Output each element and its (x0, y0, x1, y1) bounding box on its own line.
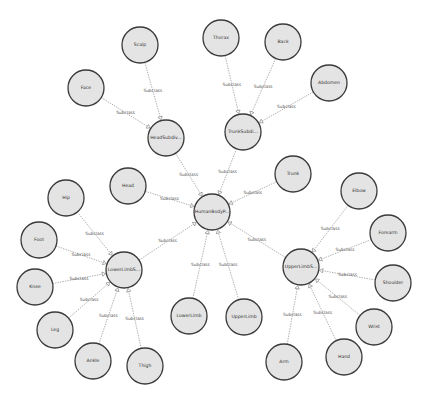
edge-label: Subclass (222, 82, 242, 87)
node-wrist[interactable]: Wrist (356, 309, 392, 345)
node-elbow[interactable]: Elbow (341, 173, 377, 209)
edge-label: Subclass (254, 84, 274, 89)
edge-label: Subclass (219, 262, 239, 267)
edge-label: Subclass (191, 262, 211, 267)
edge-back-to-trunk-subdiv[interactable]: Subclass (250, 58, 276, 114)
node-label: Trunk (286, 171, 300, 176)
node-back[interactable]: Back (265, 24, 301, 60)
ontology-graph-canvas[interactable]: SubclassSubclassSubclassSubclassSubclass… (0, 0, 428, 401)
edge-label: Subclass (72, 252, 92, 257)
edge-label: Subclass (321, 226, 341, 231)
node-lower-limb[interactable]: LowerLimb (171, 298, 207, 334)
arrowhead-icon (192, 222, 196, 226)
node-label: Wrist (368, 324, 380, 329)
node-human-body[interactable]: HumanBodyP... (194, 194, 230, 230)
edge-label: Subclass (313, 310, 333, 315)
node-arm[interactable]: Arm (266, 344, 302, 380)
edge-label: Subclass (283, 312, 303, 317)
node-label: Scalp (134, 42, 147, 47)
node-shoulder[interactable]: Shoulder (375, 265, 411, 301)
node-label: Leg (51, 327, 59, 332)
node-face[interactable]: Face (68, 70, 104, 106)
node-hand[interactable]: Hand (326, 339, 362, 375)
edge-label: Subclass (338, 272, 358, 277)
node-label: Head (122, 183, 134, 188)
node-label: Foot (34, 237, 44, 242)
arrowhead-icon (319, 257, 323, 261)
edge-label: Subclass (143, 88, 163, 93)
edge-label: Subclass (80, 297, 100, 302)
arrowhead-icon (205, 231, 209, 234)
nodes-layer: HumanBodyP...HeadSubdiv...TrunkSubdi...L… (17, 20, 411, 384)
edge-shoulder-to-upper-limb-subdiv[interactable]: Subclass (320, 269, 376, 280)
edge-lower-limb-to-human-body[interactable]: Subclass (191, 231, 211, 299)
edge-label: Subclass (247, 237, 267, 242)
edge-trunk-to-human-body[interactable]: Subclass (229, 182, 277, 205)
edge-head-subdiv-to-human-body[interactable]: Subclass (176, 153, 203, 196)
node-trunk[interactable]: Trunk (275, 156, 311, 192)
edge-label: Subclass (336, 247, 356, 252)
node-abdomen[interactable]: Abdomen (311, 65, 347, 101)
edge-knee-to-lower-limb-subdiv[interactable]: Subclass (53, 272, 106, 284)
arrowhead-icon (216, 230, 220, 234)
edge-thigh-to-lower-limb-subdiv[interactable]: Subclass (125, 289, 145, 349)
edge-upper-limb-subdiv-to-human-body[interactable]: Subclass (228, 222, 286, 258)
node-head[interactable]: Head (110, 168, 146, 204)
edge-face-to-head-subdiv[interactable]: Subclass (101, 98, 150, 129)
node-label: Thorax (212, 35, 229, 40)
arrowhead-icon (295, 286, 299, 289)
node-leg[interactable]: Leg (37, 312, 73, 348)
edge-label: Subclass (158, 238, 178, 243)
arrowhead-icon (108, 251, 112, 255)
edge-arm-to-upper-limb-subdiv[interactable]: Subclass (283, 286, 303, 345)
arrowhead-icon (218, 191, 222, 195)
node-lower-limb-subdiv[interactable]: LowerLimbS... (106, 252, 142, 288)
node-head-subdiv[interactable]: HeadSubdiv... (148, 120, 184, 156)
node-label: UpperLimbS... (285, 264, 317, 269)
edge-ankle-to-lower-limb-subdiv[interactable]: Subclass (99, 288, 119, 344)
node-label: Abdomen (318, 80, 340, 85)
edge-abdomen-to-trunk-subdiv[interactable]: Subclass (260, 92, 314, 123)
edge-label: Subclass (99, 313, 119, 318)
arrowhead-icon (190, 203, 194, 207)
edge-elbow-to-upper-limb-subdiv[interactable]: Subclass (313, 205, 349, 252)
node-label: Forearm (378, 230, 398, 235)
node-label: HeadSubdiv... (150, 135, 182, 140)
node-knee[interactable]: Knee (17, 269, 53, 305)
edge-lower-limb-subdiv-to-human-body[interactable]: Subclass (139, 222, 196, 260)
arrowhead-icon (198, 192, 202, 196)
edge-upper-limb-to-human-body[interactable]: Subclass (216, 230, 238, 300)
edge-forearm-to-upper-limb-subdiv[interactable]: Subclass (319, 240, 372, 261)
edge-thorax-to-trunk-subdiv[interactable]: Subclass (222, 56, 242, 114)
node-ankle[interactable]: Ankle (75, 343, 111, 379)
edge-trunk-subdiv-to-human-body[interactable]: Subclass (218, 149, 238, 194)
node-scalp[interactable]: Scalp (122, 27, 158, 63)
node-label: Hip (62, 195, 70, 200)
node-label: Ankle (87, 358, 100, 363)
edge-label: Subclass (116, 110, 136, 115)
node-upper-limb-subdiv[interactable]: UpperLimbS... (283, 249, 319, 285)
node-thorax[interactable]: Thorax (203, 20, 239, 56)
edge-scalp-to-head-subdiv[interactable]: Subclass (143, 62, 163, 119)
node-foot[interactable]: Foot (21, 222, 57, 258)
edge-head-to-human-body[interactable]: Subclass (145, 191, 194, 207)
arrowhead-icon (158, 116, 162, 120)
node-trunk-subdiv[interactable]: TrunkSubdi... (225, 114, 261, 150)
node-forearm[interactable]: Forearm (370, 215, 406, 251)
node-upper-limb[interactable]: UpperLimb (226, 299, 262, 335)
node-label: Elbow (352, 188, 366, 193)
edge-hip-to-lower-limb-subdiv[interactable]: Subclass (77, 212, 112, 255)
arrowhead-icon (313, 248, 317, 252)
arrowhead-icon (309, 284, 313, 288)
arrowhead-icon (102, 261, 106, 265)
node-hip[interactable]: Hip (48, 180, 84, 216)
edge-foot-to-lower-limb-subdiv[interactable]: Subclass (56, 246, 106, 265)
node-label: UpperLimb (231, 314, 256, 319)
arrowhead-icon (106, 282, 110, 286)
edge-label: Subclass (218, 169, 238, 174)
edge-label: Subclass (125, 316, 145, 321)
arrowhead-icon (127, 289, 131, 292)
node-thigh[interactable]: Thigh (127, 348, 163, 384)
arrowhead-icon (236, 110, 240, 114)
node-label: HumanBodyP... (195, 209, 230, 214)
